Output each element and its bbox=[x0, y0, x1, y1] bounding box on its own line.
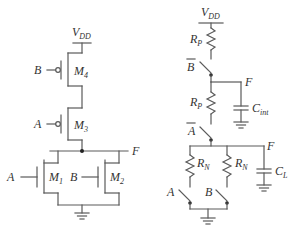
right-circuit: VDD RP B F Cint bbox=[166, 5, 288, 224]
ground-icon bbox=[257, 185, 271, 191]
switch-icon bbox=[200, 62, 211, 73]
junction-dot-icon bbox=[80, 149, 84, 153]
resistor-label: RP bbox=[189, 32, 202, 48]
circuit-figure: VDD B M4 A M3 F bbox=[0, 0, 293, 234]
resistor-label: RN bbox=[196, 156, 210, 172]
switch-label: A bbox=[166, 185, 175, 199]
transistor-m1: A M1 bbox=[6, 151, 63, 193]
gate-input-label: B bbox=[70, 170, 78, 184]
gate-input-label: A bbox=[6, 170, 15, 184]
inversion-bubble-icon bbox=[56, 68, 61, 73]
transistor-m2: B M2 bbox=[70, 151, 124, 193]
node-label: F bbox=[244, 75, 253, 89]
switch-label: B bbox=[187, 60, 195, 74]
capacitor-label: Cint bbox=[252, 101, 269, 117]
resistor-icon bbox=[207, 23, 215, 59]
vdd-label: VDD bbox=[201, 5, 220, 21]
resistor-label: RP bbox=[189, 95, 202, 111]
transistor-label: M1 bbox=[48, 170, 63, 186]
resistor-icon bbox=[186, 146, 194, 187]
ground-icon bbox=[234, 122, 248, 128]
capacitor-label: CL bbox=[275, 164, 288, 180]
switch-label: B bbox=[205, 185, 213, 199]
left-circuit: VDD B M4 A M3 F bbox=[6, 25, 140, 219]
vdd-label: VDD bbox=[72, 25, 91, 41]
transistor-label: M2 bbox=[109, 170, 124, 186]
resistor-icon bbox=[223, 146, 231, 187]
ground-icon bbox=[201, 209, 215, 224]
output-label: F bbox=[131, 144, 140, 158]
transistor-label: M4 bbox=[73, 64, 88, 80]
switch-label: A bbox=[187, 124, 196, 138]
transistor-label: M3 bbox=[73, 118, 88, 134]
switch-icon bbox=[200, 127, 211, 138]
switch-icon bbox=[216, 190, 227, 201]
resistor-icon bbox=[207, 82, 215, 124]
gate-input-label: A bbox=[33, 117, 42, 131]
switch-icon bbox=[179, 190, 190, 201]
transistor-m3: A M3 bbox=[33, 108, 88, 140]
transistor-m4: B M4 bbox=[34, 53, 88, 86]
resistor-label: RN bbox=[234, 156, 248, 172]
gate-input-label: B bbox=[34, 63, 42, 77]
ground-icon bbox=[75, 205, 89, 219]
output-label: F bbox=[266, 139, 275, 153]
inversion-bubble-icon bbox=[56, 122, 61, 127]
